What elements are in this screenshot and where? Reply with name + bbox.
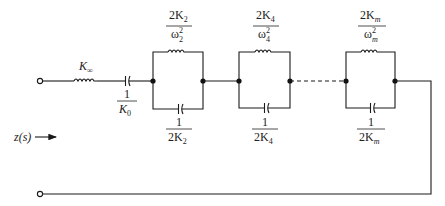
node [236,78,241,83]
section-m-inductor-numerator: 2Km [360,8,381,24]
section-2-inductor-icon [255,50,290,81]
circuit-diagram: K∞ 1 K0 2K2 ω22 1 2K2 [0,0,445,206]
section-2-inductor-numerator: 2K4 [256,8,275,24]
section-m-capacitor-numerator: 1 [368,115,374,129]
section-1-inductor-icon [168,50,203,81]
section-2-capacitor-numerator: 1 [262,115,268,129]
series-capacitor-numerator: 1 [124,87,130,101]
tank-section-2 [236,50,292,113]
series-capacitor-denominator: K0 [118,102,131,118]
input-terminal-bottom [37,191,42,196]
node [150,78,155,83]
series-inductor-icon [74,79,97,81]
section-1-capacitor-denominator: 2K2 [168,130,187,146]
section-m-inductor-denominator: ω2m [364,26,378,44]
section-2-capacitor-denominator: 2K4 [254,130,273,146]
tank-section-1 [150,50,205,114]
section-1-capacitor-numerator: 1 [176,115,182,129]
section-m-inductor-icon [361,50,395,81]
node [343,78,348,83]
section-1-inductor-numerator: 2K2 [169,8,188,24]
section-m-capacitor-denominator: 2Km [359,130,380,146]
series-inductor-label: K∞ [78,59,93,75]
section-1-inductor-denominator: ω22 [171,26,183,44]
input-terminal-top [37,78,42,83]
tank-section-m [343,50,397,113]
section-2-inductor-denominator: ω24 [258,26,270,44]
impedance-label: z(s) [13,130,31,144]
